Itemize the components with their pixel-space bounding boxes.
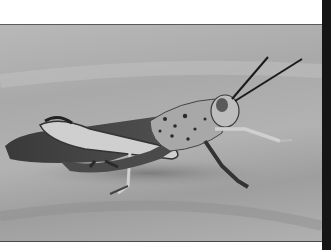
right-dark-border [322, 0, 331, 250]
grasshopper-photo [0, 24, 322, 242]
grasshopper-illustration [0, 25, 322, 242]
bottom-white-strip [0, 242, 322, 250]
top-white-strip [0, 0, 322, 24]
